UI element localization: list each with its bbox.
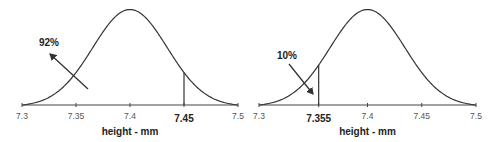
- x-axis-label: height - mm: [339, 126, 396, 137]
- x-tick-label: 7.45: [413, 111, 430, 121]
- normal-distribution-charts: 7.37.357.47.457.5height - mm92% 7.37.355…: [0, 0, 498, 142]
- x-tick-label: 7.4: [362, 111, 374, 121]
- percent-annotation: 92%: [39, 37, 59, 48]
- x-tick-label: 7.3: [253, 111, 265, 121]
- x-tick-label: 7.45: [174, 113, 194, 124]
- arrow-icon: [289, 64, 313, 94]
- x-tick-label: 7.5: [470, 111, 482, 121]
- percent-annotation: 10%: [277, 50, 297, 61]
- chart-left-92-percent: 7.37.357.47.457.5height - mm92%: [16, 10, 244, 138]
- arrow-icon: [50, 54, 88, 89]
- x-tick-label: 7.355: [306, 113, 331, 124]
- chart-figure: 7.37.357.47.457.5height - mm92% 7.37.355…: [0, 0, 498, 142]
- x-tick-label: 7.5: [232, 111, 244, 121]
- x-tick-label: 7.4: [124, 111, 136, 121]
- x-axis-label: height - mm: [102, 126, 159, 137]
- x-tick-label: 7.35: [68, 111, 85, 121]
- x-tick-label: 7.3: [16, 111, 28, 121]
- chart-right-10-percent: 7.37.3557.47.457.5height - mm10%: [253, 10, 482, 138]
